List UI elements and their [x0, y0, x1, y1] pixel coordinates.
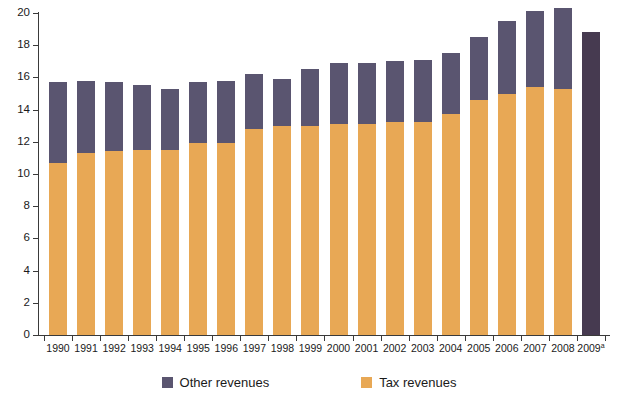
x-axis-tick	[549, 336, 550, 341]
bar-segment-other-revenues	[330, 63, 348, 124]
bar-segment-tax-revenues	[133, 150, 151, 335]
bar-2002	[386, 61, 404, 335]
bar-2004	[442, 53, 460, 335]
bar-segment-tax-revenues	[217, 143, 235, 335]
x-axis-tick	[381, 336, 382, 341]
y-axis-tick-label: 4	[0, 265, 30, 277]
bar-1998	[273, 79, 291, 335]
bar-segment-tax-revenues	[442, 114, 460, 335]
legend-label-tax-revenues: Tax revenues	[379, 376, 456, 389]
x-axis-tick	[44, 336, 45, 341]
x-axis-tick	[100, 336, 101, 341]
y-axis-tick-label: 12	[0, 136, 30, 148]
y-axis-tick-label: 20	[0, 7, 30, 19]
bar-segment-tax-revenues	[470, 100, 488, 335]
bar-1994	[161, 89, 179, 335]
x-axis-tick	[296, 336, 297, 341]
stacked-bar-chart: 02468101214161820 1990199119921993199419…	[0, 0, 618, 393]
bar-1993	[133, 85, 151, 335]
bar-1992	[105, 82, 123, 335]
bar-2005	[470, 37, 488, 335]
bar-segment-other-revenues	[189, 82, 207, 143]
x-axis-tick	[128, 336, 129, 341]
bar-segment-other-revenues	[77, 81, 95, 153]
bar-segment-tax-revenues	[554, 89, 572, 335]
legend-item-other-revenues: Other revenues	[162, 376, 270, 389]
bar-1997	[245, 74, 263, 335]
y-axis-tick-label: 8	[0, 200, 30, 212]
y-axis-tick-label: 6	[0, 232, 30, 244]
y-axis-tick-label: 18	[0, 39, 30, 51]
bar-segment-tax-revenues	[161, 150, 179, 335]
legend-swatch-other-revenues-icon	[162, 377, 173, 388]
chart-legend: Other revenues Tax revenues	[0, 372, 618, 392]
bar-segment-total	[582, 32, 600, 335]
x-axis-tick	[240, 336, 241, 341]
bar-segment-other-revenues	[442, 53, 460, 114]
x-axis-tick	[156, 336, 157, 341]
bar-segment-tax-revenues	[330, 124, 348, 335]
bar-segment-other-revenues	[386, 61, 404, 122]
bar-2006	[498, 21, 516, 335]
bar-segment-other-revenues	[470, 37, 488, 100]
y-axis-tick-label: 10	[0, 168, 30, 180]
legend-item-tax-revenues: Tax revenues	[361, 376, 456, 389]
bar-segment-other-revenues	[498, 21, 516, 93]
bar-segment-other-revenues	[217, 81, 235, 144]
bar-segment-tax-revenues	[498, 94, 516, 336]
bar-segment-tax-revenues	[273, 126, 291, 335]
bar-1996	[217, 81, 235, 335]
x-axis-tick	[437, 336, 438, 341]
bars-layer	[38, 0, 610, 336]
bar-1990	[49, 82, 67, 335]
bar-segment-tax-revenues	[414, 122, 432, 335]
bar-segment-other-revenues	[245, 74, 263, 129]
bar-segment-tax-revenues	[105, 151, 123, 335]
bar-1999	[301, 69, 319, 335]
bar-segment-other-revenues	[161, 89, 179, 150]
bar-2009	[582, 32, 600, 335]
x-axis-tick	[465, 336, 466, 341]
y-axis-tick-label: 14	[0, 104, 30, 116]
x-axis-tick	[324, 336, 325, 341]
x-axis-tick	[72, 336, 73, 341]
bar-segment-other-revenues	[105, 82, 123, 151]
bar-2003	[414, 60, 432, 335]
bar-2008	[554, 8, 572, 335]
x-axis-tick	[212, 336, 213, 341]
bar-segment-other-revenues	[554, 8, 572, 89]
x-axis-tick	[577, 336, 578, 341]
x-axis-tick-label: 2009a	[575, 343, 607, 354]
bar-segment-other-revenues	[414, 60, 432, 123]
bar-segment-tax-revenues	[386, 122, 404, 335]
bar-2007	[526, 11, 544, 335]
x-axis-label-footnote: a	[601, 342, 605, 349]
x-axis-tick	[493, 336, 494, 341]
y-axis-tick-label: 0	[0, 329, 30, 341]
bar-segment-other-revenues	[358, 63, 376, 124]
x-axis-tick	[268, 336, 269, 341]
x-axis-tick	[353, 336, 354, 341]
legend-label-other-revenues: Other revenues	[180, 376, 270, 389]
bar-segment-other-revenues	[49, 82, 67, 163]
bar-segment-tax-revenues	[189, 143, 207, 335]
bar-segment-tax-revenues	[301, 126, 319, 335]
bar-segment-tax-revenues	[245, 129, 263, 335]
bar-2000	[330, 63, 348, 335]
bar-segment-tax-revenues	[49, 163, 67, 335]
x-axis-tick	[184, 336, 185, 341]
bar-1991	[77, 81, 95, 335]
bar-segment-tax-revenues	[526, 87, 544, 335]
legend-swatch-tax-revenues-icon	[361, 377, 372, 388]
bar-1995	[189, 82, 207, 335]
y-axis-tick-label: 16	[0, 71, 30, 83]
bar-2001	[358, 63, 376, 335]
bar-segment-other-revenues	[526, 11, 544, 87]
x-axis-tick	[605, 336, 606, 341]
x-axis-tick	[409, 336, 410, 341]
bar-segment-other-revenues	[133, 85, 151, 149]
bar-segment-tax-revenues	[77, 153, 95, 335]
bar-segment-other-revenues	[301, 69, 319, 125]
bar-segment-other-revenues	[273, 79, 291, 126]
bar-segment-tax-revenues	[358, 124, 376, 335]
